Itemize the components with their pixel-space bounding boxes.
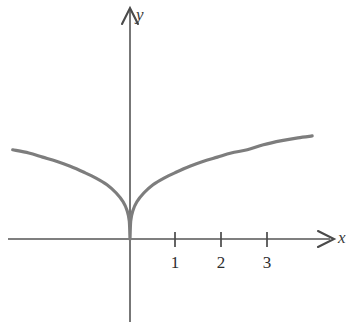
function-curve	[13, 136, 312, 239]
x-axis-label: x	[338, 229, 346, 246]
y-axis-label: y	[136, 6, 144, 23]
graph-figure: y x 1 2 3	[0, 0, 353, 325]
plot-canvas	[0, 0, 353, 325]
x-tick-label-1: 1	[165, 254, 185, 271]
x-tick-label-3: 3	[257, 254, 277, 271]
x-tick-label-2: 2	[211, 254, 231, 271]
